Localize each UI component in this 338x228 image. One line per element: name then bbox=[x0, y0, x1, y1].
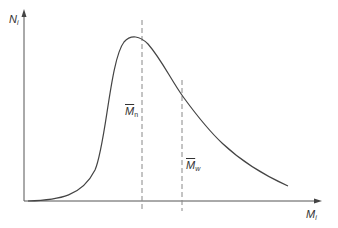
x-axis-label-text: M bbox=[306, 208, 315, 220]
y-axis-label-text: N bbox=[9, 13, 17, 25]
x-axis-arrow-icon bbox=[314, 199, 322, 204]
mw-label: Mw bbox=[186, 160, 200, 172]
molecular-weight-distribution-diagram bbox=[0, 0, 338, 228]
mw-label-subscript: w bbox=[195, 165, 200, 172]
x-axis-label-subscript: i bbox=[315, 214, 317, 221]
mn-label-text: M bbox=[125, 105, 134, 117]
y-axis-arrow-icon bbox=[22, 9, 27, 17]
distribution-curve bbox=[28, 37, 288, 201]
x-axis-label: Mi bbox=[306, 209, 317, 221]
mw-label-text: M bbox=[186, 159, 195, 171]
y-axis-label-subscript: i bbox=[17, 19, 19, 26]
y-axis-label: Ni bbox=[9, 14, 19, 26]
mn-label-subscript: n bbox=[134, 111, 138, 118]
mn-label: Mn bbox=[125, 106, 138, 118]
